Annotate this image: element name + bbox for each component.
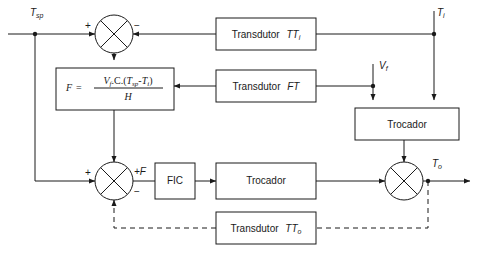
formula-numerator: Vf.C.(Tsp-Ti) [103, 75, 152, 87]
signal-label-plus-f: +F [134, 166, 147, 177]
signal-label-ti: Ti [437, 7, 445, 19]
sign-top-plus: + [85, 20, 91, 31]
transdutor-tti-label: Transdutor [232, 29, 281, 40]
summing-junction-top[interactable] [95, 15, 133, 53]
sign-top-minus: − [134, 20, 140, 31]
transdutor-tto-tag: TT [285, 223, 298, 234]
block-transdutor-ft[interactable]: Transdutor FT [216, 70, 316, 102]
block-transdutor-tto[interactable]: Transdutor TTo [216, 212, 316, 244]
transdutor-tti-tag: TT [286, 29, 299, 40]
signal-label-vf: Vf [379, 60, 389, 72]
formula-equals: = [76, 82, 82, 93]
svg-text:Transdutor TTi: Transdutor TTi [232, 29, 301, 41]
sign-bottom-minus: − [134, 186, 140, 197]
junction-dot-ti [432, 32, 436, 36]
control-block-diagram: Transdutor TTi F = Vf.C.(Tsp-Ti) H Trans… [0, 0, 481, 259]
summing-junction-right[interactable] [385, 162, 423, 200]
block-trocador-top[interactable]: Trocador [355, 108, 459, 140]
summing-junction-bottom-left[interactable] [95, 162, 133, 200]
formula-denominator: H [123, 91, 132, 102]
transdutor-ft-label: Transdutor [233, 81, 282, 92]
signal-label-to: To [432, 158, 442, 170]
trocador-bottom-label: Trocador [246, 175, 286, 186]
junction-dot-vf [371, 84, 375, 88]
transdutor-tto-label: Transdutor [231, 223, 280, 234]
trocador-top-label: Trocador [387, 119, 427, 130]
block-transdutor-tti[interactable]: Transdutor TTi [216, 18, 316, 50]
block-fic[interactable]: FIC [155, 163, 195, 199]
transdutor-ft-tag: FT [287, 81, 300, 92]
transdutor-tto-tag-sub: o [298, 227, 302, 234]
junction-dot-tsp [33, 32, 37, 36]
diagram-canvas: Transdutor TTi F = Vf.C.(Tsp-Ti) H Trans… [0, 0, 481, 259]
fic-label: FIC [167, 175, 183, 186]
signal-label-tsp: Tsp [30, 7, 44, 20]
wire-tto-to-sum-bottom [114, 203, 216, 228]
svg-text:Transdutor FT: Transdutor FT [233, 81, 301, 92]
svg-text:Transdutor TTo: Transdutor TTo [231, 223, 302, 235]
block-trocador-bottom[interactable]: Trocador [216, 163, 316, 199]
formula-lhs: F [65, 82, 73, 93]
block-formula[interactable]: F = Vf.C.(Tsp-Ti) H [56, 68, 174, 110]
junction-dot-to [426, 179, 430, 183]
sign-bottom-plus: + [85, 167, 91, 178]
